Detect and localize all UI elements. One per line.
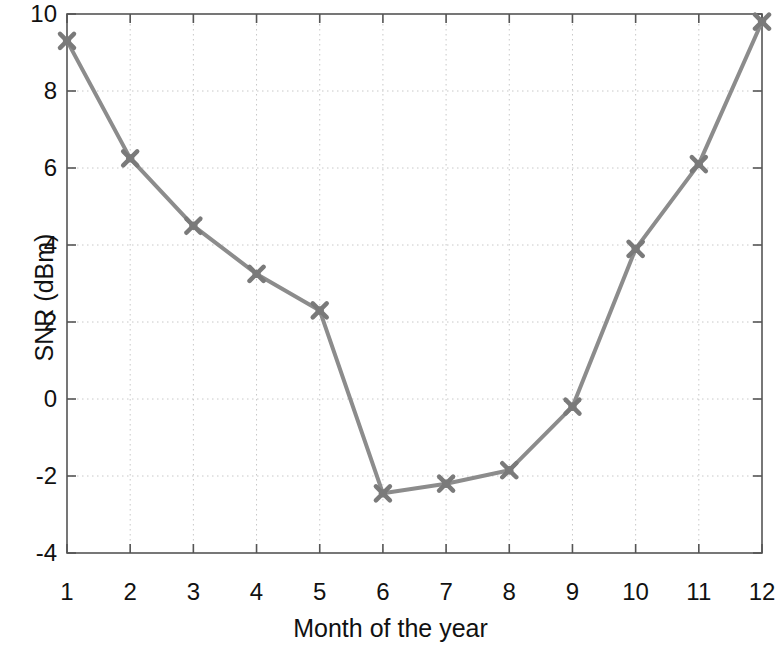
x-tick-label: 2 — [100, 578, 160, 606]
data-series-snr — [60, 15, 769, 501]
plot-area — [0, 0, 781, 653]
x-tick-label: 12 — [732, 578, 781, 606]
x-tick-label: 7 — [416, 578, 476, 606]
gridlines — [67, 14, 762, 553]
x-tick-label: 4 — [227, 578, 287, 606]
axis-ticks — [67, 14, 762, 553]
x-tick-label: 1 — [37, 578, 97, 606]
x-axis-tick-labels: 123456789101112 — [0, 578, 781, 614]
x-tick-label: 9 — [542, 578, 602, 606]
x-tick-label: 11 — [669, 578, 729, 606]
x-axis-label: Month of the year — [0, 614, 781, 643]
x-tick-label: 8 — [479, 578, 539, 606]
x-tick-label: 10 — [606, 578, 666, 606]
chart-figure: SNR (dBm) -4-20246810 123456789101112 Mo… — [0, 0, 781, 653]
x-tick-label: 5 — [290, 578, 350, 606]
axis-box — [67, 14, 762, 553]
x-tick-label: 6 — [353, 578, 413, 606]
x-tick-label: 3 — [163, 578, 223, 606]
data-point — [186, 219, 200, 233]
data-point — [250, 267, 264, 281]
data-point — [123, 151, 137, 165]
